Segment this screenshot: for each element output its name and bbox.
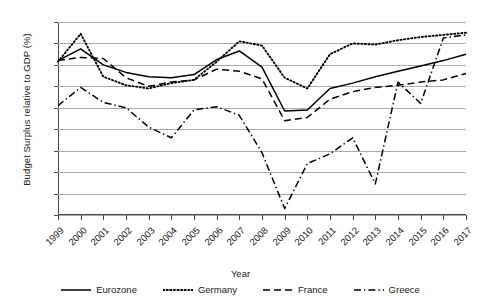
series-svg — [58, 22, 466, 215]
x-tick-mark — [81, 215, 82, 220]
x-tick-mark — [171, 215, 172, 220]
x-tick-mark — [58, 215, 59, 220]
series-line-germany — [58, 33, 466, 89]
x-tick-mark — [194, 215, 195, 220]
x-tick-mark — [149, 215, 150, 220]
legend-item-france[interactable]: France — [263, 284, 328, 295]
series-line-eurozone — [58, 49, 466, 111]
x-tick-mark — [330, 215, 331, 220]
legend-swatch-icon — [263, 285, 293, 295]
legend-label: Eurozone — [96, 284, 137, 295]
x-tick-mark — [466, 215, 467, 220]
y-axis-title: Budget Surplus relative to GDP (%) — [21, 10, 32, 210]
legend-label: Germany — [198, 284, 237, 295]
x-tick-mark — [262, 215, 263, 220]
legend-label: France — [298, 284, 328, 295]
chart-legend: EurozoneGermanyFranceGreece — [0, 284, 481, 295]
x-tick-mark — [239, 215, 240, 220]
legend-item-greece[interactable]: Greece — [354, 284, 420, 295]
chart-figure: Budget Surplus relative to GDP (%) 20–2–… — [0, 0, 481, 308]
x-tick-mark — [307, 215, 308, 220]
legend-item-germany[interactable]: Germany — [163, 284, 237, 295]
legend-item-eurozone[interactable]: Eurozone — [61, 284, 137, 295]
x-tick-mark — [398, 215, 399, 220]
legend-swatch-icon — [61, 285, 91, 295]
series-line-greece — [58, 35, 466, 209]
x-tick-mark — [126, 215, 127, 220]
legend-label: Greece — [389, 284, 420, 295]
legend-swatch-icon — [354, 285, 384, 295]
x-axis-title: Year — [0, 268, 481, 279]
x-tick-mark — [421, 215, 422, 220]
x-tick-mark — [285, 215, 286, 220]
plot-area — [58, 22, 466, 215]
x-tick-mark — [443, 215, 444, 220]
x-tick-mark — [375, 215, 376, 220]
legend-swatch-icon — [163, 285, 193, 295]
x-tick-mark — [217, 215, 218, 220]
x-tick-mark — [103, 215, 104, 220]
x-tick-mark — [353, 215, 354, 220]
